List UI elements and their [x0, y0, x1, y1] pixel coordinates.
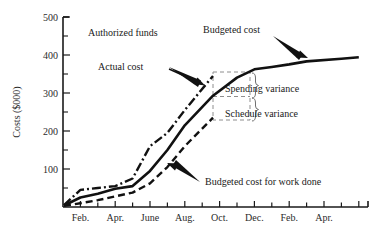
annotation-budgeted-cost-for-work-done: Budgeted cost for work done	[205, 176, 322, 187]
annotation-authorized-funds: Authorized funds	[88, 27, 158, 38]
x-tick-label-apr-2: Apr.	[315, 212, 333, 223]
x-tick-label-june: June	[141, 212, 160, 223]
x-tick-label-oct: Oct.	[211, 212, 228, 223]
annotation-schedule-variance: Schedule variance	[225, 108, 299, 119]
x-axis-tick-labels: Feb. Apr. June Aug. Oct. Dec. Feb. Apr.	[72, 212, 333, 223]
annotation-spending-variance: Spending variance	[225, 83, 300, 94]
annotation-budgeted-cost: Budgeted cost	[203, 24, 260, 35]
y-axis-title: Costs ($000)	[11, 86, 23, 137]
x-tick-label-apr-1: Apr.	[106, 212, 124, 223]
x-tick-label-feb-2: Feb.	[280, 212, 298, 223]
y-axis-ticks	[63, 17, 70, 188]
budgeted-cost-work-done-arrow-icon	[167, 160, 200, 182]
series-budgeted-cost-for-work-done	[64, 118, 213, 206]
x-axis-ticks	[80, 201, 358, 207]
annotation-actual-cost: Actual cost	[98, 61, 143, 72]
x-tick-label-aug: Aug.	[175, 212, 195, 223]
x-axis	[63, 201, 368, 207]
y-tick-label-100: 100	[43, 164, 58, 175]
actual-cost-arrow-icon	[169, 67, 205, 87]
y-tick-label-300: 300	[43, 88, 58, 99]
y-tick-label-500: 500	[43, 12, 58, 23]
y-tick-label-400: 400	[43, 50, 58, 61]
budgeted-cost-arrow-icon	[273, 36, 308, 60]
y-axis-tick-labels: 500 400 300 200 100	[43, 12, 58, 175]
cost-variance-chart: 500 400 300 200 100 Costs ($000) Feb. Ap…	[0, 0, 377, 234]
x-tick-label-feb-1: Feb.	[72, 212, 90, 223]
y-tick-label-200: 200	[43, 126, 58, 137]
x-tick-label-dec: Dec.	[245, 212, 264, 223]
